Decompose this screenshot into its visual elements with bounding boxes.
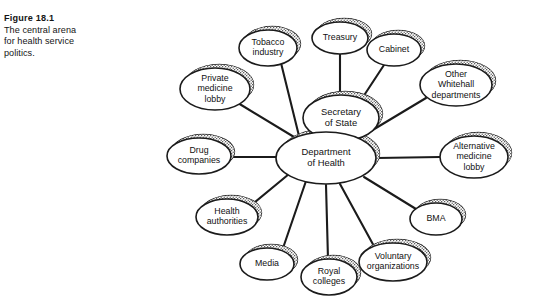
node-label-voluntary-organizations: organizations xyxy=(367,261,420,271)
node-royal-colleges[interactable]: Royalcolleges xyxy=(301,259,357,295)
edge-tobacco-industry-to-department-of-health xyxy=(281,63,300,140)
node-label-alternative-medicine-lobby: medicine xyxy=(456,151,491,161)
edge-royal-colleges-to-department-of-health xyxy=(326,185,328,259)
node-label-voluntary-organizations: Voluntary xyxy=(375,251,412,261)
node-label-other-whitehall-departments: Whitehall xyxy=(438,79,474,89)
node-label-cabinet: Cabinet xyxy=(379,44,410,54)
node-label-alternative-medicine-lobby: Alternative xyxy=(453,141,495,151)
node-bma[interactable]: BMA xyxy=(410,203,462,235)
node-label-health-authorities: Health xyxy=(214,206,240,216)
node-tobacco-industry[interactable]: Tobaccoindustry xyxy=(239,30,297,66)
figure-page: Figure 18.1 The central arena for health… xyxy=(0,0,545,307)
node-label-private-medicine-lobby: Private xyxy=(201,73,228,83)
node-label-tobacco-industry: industry xyxy=(253,47,284,57)
node-media[interactable]: Media xyxy=(240,248,294,280)
node-label-other-whitehall-departments: departments xyxy=(432,90,481,100)
node-label-drug-companies: companies xyxy=(178,155,221,165)
node-label-bma: BMA xyxy=(426,213,445,223)
node-label-secretary-of-state: of State xyxy=(325,117,357,128)
node-drug-companies[interactable]: Drugcompanies xyxy=(167,138,231,174)
node-other-whitehall-departments[interactable]: OtherWhitehalldepartments xyxy=(420,64,492,106)
edge-media-to-department-of-health xyxy=(282,181,306,251)
node-label-alternative-medicine-lobby: lobby xyxy=(463,162,485,172)
edge-voluntary-organizations-to-department-of-health xyxy=(340,184,375,248)
node-cabinet[interactable]: Cabinet xyxy=(367,34,421,66)
node-label-treasury: Treasury xyxy=(323,32,358,42)
node-label-royal-colleges: colleges xyxy=(313,276,346,286)
node-label-department-of-health: of Health xyxy=(307,157,345,168)
node-label-private-medicine-lobby: medicine xyxy=(197,83,232,93)
node-health-authorities[interactable]: Healthauthorities xyxy=(196,199,258,235)
node-private-medicine-lobby[interactable]: Privatemedicinelobby xyxy=(180,68,250,110)
node-label-secretary-of-state: Secretary xyxy=(321,106,361,117)
node-label-other-whitehall-departments: Other xyxy=(445,69,467,79)
node-treasury[interactable]: Treasury xyxy=(312,22,368,54)
node-label-royal-colleges: Royal xyxy=(318,266,341,276)
node-alternative-medicine-lobby[interactable]: Alternativemedicinelobby xyxy=(440,136,508,178)
edge-alternative-medicine-lobby-to-department-of-health xyxy=(377,157,440,158)
node-label-tobacco-industry: Tobacco xyxy=(252,37,285,47)
edge-bma-to-department-of-health xyxy=(364,177,416,209)
node-voluntary-organizations[interactable]: Voluntaryorganizations xyxy=(359,243,427,281)
edge-private-medicine-lobby-to-department-of-health xyxy=(238,103,299,140)
node-label-department-of-health: Department xyxy=(302,146,351,157)
node-label-media: Media xyxy=(255,258,279,268)
node-department-of-health[interactable]: Departmentof Health xyxy=(276,132,376,184)
node-label-private-medicine-lobby: lobby xyxy=(204,94,226,104)
diagram-canvas: Secretaryof StateDepartmentof HealthToba… xyxy=(0,0,545,307)
node-label-health-authorities: authorities xyxy=(207,216,248,226)
node-label-drug-companies: Drug xyxy=(189,145,208,155)
